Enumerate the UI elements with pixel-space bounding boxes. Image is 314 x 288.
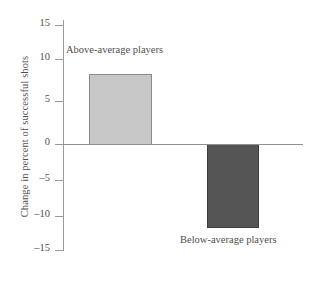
bar-label-below-average-players: Below-average players — [180, 234, 277, 245]
y-tick-mark — [55, 25, 63, 26]
bar-label-above-average-players: Above-average players — [66, 44, 163, 55]
y-tick-label: 15 — [0, 17, 50, 28]
y-tick-label: 0 — [0, 136, 50, 147]
bar-chart: Change in percent of successful shots 15… — [0, 0, 314, 288]
zero-baseline — [63, 144, 303, 145]
y-tick-label: –15 — [0, 242, 50, 253]
y-tick-label: 10 — [0, 51, 50, 62]
y-tick-mark — [55, 144, 63, 145]
y-tick-label: –10 — [0, 208, 50, 219]
y-axis-spine — [63, 20, 64, 251]
y-tick-mark — [55, 250, 63, 251]
y-tick-label: –5 — [0, 172, 50, 183]
y-tick-mark — [55, 216, 63, 217]
y-tick-label: 5 — [0, 93, 50, 104]
y-tick-mark — [55, 101, 63, 102]
y-tick-mark — [55, 180, 63, 181]
bar-below-average-players — [207, 145, 259, 228]
bar-above-average-players — [89, 74, 152, 144]
y-tick-mark — [55, 59, 63, 60]
